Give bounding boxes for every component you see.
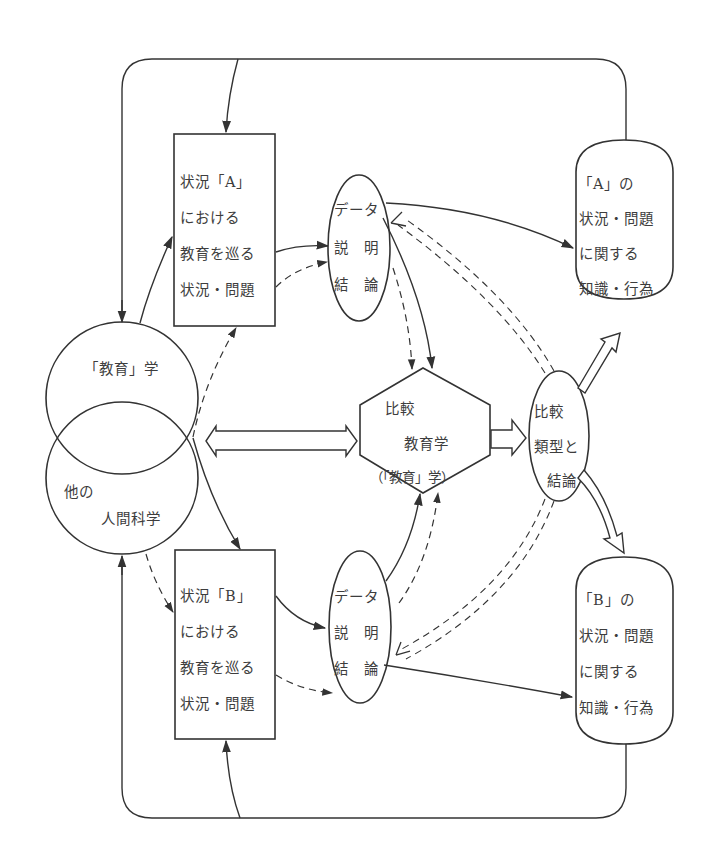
data-a-line-3: 結 論: [334, 278, 379, 293]
dashed-arrow-to-situation-a: [193, 328, 236, 437]
situation-a-line-1: 状況「A」: [180, 175, 251, 190]
knowledge-a-line-3: に関する: [579, 247, 639, 262]
dashed-arrow-data-a-to-hexagon: [393, 268, 412, 369]
comparison-line-2: 類型と: [534, 440, 579, 455]
situation-b-line-4: 状況・問題: [180, 697, 255, 712]
other-label: 他の: [64, 485, 94, 500]
situation-a-line-4: 状況・問題: [180, 283, 255, 298]
data-a-line-1: データ: [334, 203, 379, 218]
knowledge-b-line-2: 状況・問題: [579, 629, 654, 644]
dashed-arrow-situation-a-to-data-a: [276, 262, 327, 287]
hexagon-line-1: 比較: [385, 402, 415, 417]
knowledge-b-line-3: に関する: [579, 665, 639, 680]
data-a-line-2: 説 明: [334, 241, 379, 256]
data-b-line-2: 説 明: [334, 626, 379, 641]
data-b-line-1: データ: [334, 590, 379, 605]
dashed-feedback-arrow-to-data-b: [396, 499, 554, 659]
bidirectional-hollow-arrow: [206, 426, 357, 456]
loop-arrow-into-situation-b: [226, 741, 240, 818]
dashed-arrow-human-sciences-to-situation-b: [146, 554, 173, 612]
situation-b-line-2: における: [180, 625, 240, 640]
hollow-arrow-to-knowledge-a: [578, 333, 620, 393]
dashed-arrow-situation-b-to-data-b: [276, 675, 332, 693]
hexagon-line-2: 教育学: [404, 437, 449, 452]
arrow-data-b-to-hexagon: [386, 494, 420, 581]
situation-a-line-3: 教育を巡る: [180, 247, 255, 262]
knowledge-b-line-1: 「B」の: [578, 593, 635, 608]
arrow-situation-b-to-data-b: [276, 596, 325, 628]
hollow-arrow-to-knowledge-b: [578, 470, 624, 553]
hollow-arrow-to-comparison: [491, 420, 526, 455]
situation-a-line-2: における: [180, 211, 240, 226]
education-studies-circle: [46, 322, 198, 474]
knowledge-a-line-2: 状況・問題: [579, 212, 654, 227]
situation-b-line-3: 教育を巡る: [180, 661, 255, 676]
arrow-situation-a-to-data-a: [276, 246, 328, 252]
education-studies-label: 「教育」学: [84, 362, 159, 377]
arrow-education-to-situation-a: [140, 237, 172, 323]
human-sciences-label: 人間科学: [101, 512, 161, 527]
arrow-data-a-to-knowledge-a: [386, 203, 573, 248]
human-sciences-circle: [46, 402, 198, 554]
comparison-line-3: 結論: [547, 474, 577, 489]
situation-b-line-1: 状況「B」: [180, 589, 252, 604]
knowledge-b-line-4: 知識・行為: [579, 701, 654, 716]
data-b-line-3: 結 論: [334, 662, 379, 677]
knowledge-a-line-1: 「A」の: [578, 177, 634, 192]
diagram-canvas: [0, 0, 719, 860]
hexagon-line-3: （「教育」学）: [370, 471, 454, 485]
comparison-line-1: 比較: [534, 405, 564, 420]
knowledge-a-line-4: 知識・行為: [579, 282, 654, 297]
arrow-data-b-to-knowledge-b: [384, 665, 572, 697]
loop-arrow-into-situation-a: [226, 59, 238, 132]
